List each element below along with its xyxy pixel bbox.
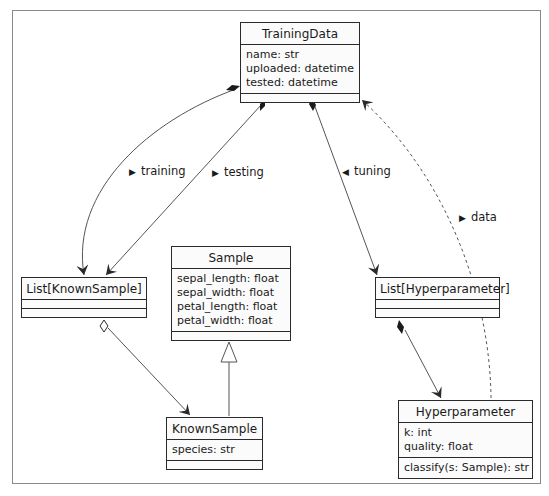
training-label: ▶training bbox=[129, 164, 185, 178]
attribute: quality: float bbox=[404, 440, 527, 454]
class-list-known-sample[interactable]: List[KnownSample] bbox=[21, 277, 147, 318]
tuning-association-line bbox=[314, 104, 377, 275]
data-dependency-line bbox=[362, 100, 491, 398]
class-operations: classify(s: Sample): str bbox=[399, 458, 532, 478]
attribute: petal_width: float bbox=[177, 314, 285, 328]
attribute: sepal_width: float bbox=[177, 286, 285, 300]
direction-arrow-icon: ▶ bbox=[212, 168, 219, 178]
class-operations bbox=[376, 309, 499, 317]
class-name: List[Hyperparameter] bbox=[376, 278, 499, 300]
attribute: uploaded: datetime bbox=[246, 62, 354, 76]
tuning-label: ◀tuning bbox=[342, 164, 391, 178]
generalization-triangle-icon bbox=[221, 342, 237, 362]
class-attributes: sepal_length: float sepal_width: float p… bbox=[172, 269, 290, 332]
class-known-sample[interactable]: KnownSample species: str bbox=[166, 417, 263, 470]
attribute: name: str bbox=[246, 48, 354, 62]
direction-arrow-icon: ▶ bbox=[129, 167, 136, 177]
composition-line bbox=[405, 330, 441, 398]
class-name: List[KnownSample] bbox=[22, 278, 146, 300]
class-attributes: species: str bbox=[167, 440, 262, 461]
class-operations bbox=[167, 461, 262, 469]
class-name: Hyperparameter bbox=[399, 401, 532, 423]
aggregation-diamond-icon bbox=[100, 320, 108, 332]
class-name: Sample bbox=[172, 247, 290, 269]
class-operations bbox=[241, 94, 359, 102]
composition-diamond-icon bbox=[226, 85, 240, 91]
direction-arrow-icon: ◀ bbox=[342, 167, 349, 177]
attribute: petal_length: float bbox=[177, 300, 285, 314]
class-hyperparameter[interactable]: Hyperparameter k: int quality: float cla… bbox=[398, 400, 533, 479]
operation: classify(s: Sample): str bbox=[404, 461, 527, 475]
direction-arrow-icon: ▶ bbox=[459, 213, 466, 223]
class-name: KnownSample bbox=[167, 418, 262, 440]
aggregation-line bbox=[108, 328, 190, 415]
class-operations bbox=[22, 309, 146, 317]
class-sample[interactable]: Sample sepal_length: float sepal_width: … bbox=[171, 246, 291, 341]
class-operations bbox=[172, 332, 290, 340]
class-attributes: k: int quality: float bbox=[399, 423, 532, 458]
class-training-data[interactable]: TrainingData name: str uploaded: datetim… bbox=[240, 22, 360, 103]
testing-label: ▶testing bbox=[212, 165, 264, 179]
attribute: k: int bbox=[404, 426, 527, 440]
composition-diamond-icon bbox=[397, 320, 404, 334]
class-attributes bbox=[22, 300, 146, 309]
class-attributes: name: str uploaded: datetime tested: dat… bbox=[241, 45, 359, 94]
class-attributes bbox=[376, 300, 499, 309]
attribute: species: str bbox=[172, 443, 257, 457]
attribute: tested: datetime bbox=[246, 76, 354, 90]
attribute: sepal_length: float bbox=[177, 272, 285, 286]
class-name: TrainingData bbox=[241, 23, 359, 45]
data-label: ▶data bbox=[459, 210, 497, 224]
class-list-hyperparameter[interactable]: List[Hyperparameter] bbox=[375, 277, 500, 318]
